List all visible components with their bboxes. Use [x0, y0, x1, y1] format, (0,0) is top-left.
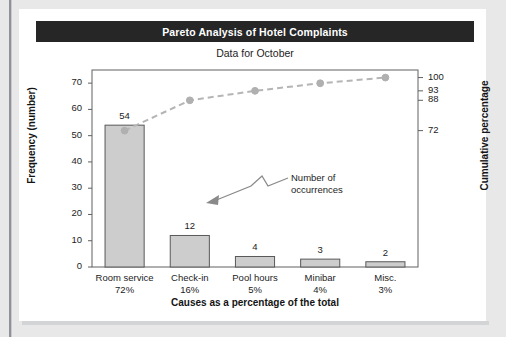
- bar-1: [170, 235, 209, 267]
- annotation-arrowhead: [206, 195, 219, 205]
- cumulative-marker-0: [121, 127, 128, 134]
- y-tick-label-left-70: 70: [56, 76, 82, 87]
- y-tick-label-left-40: 40: [56, 155, 82, 166]
- bar-value-label-1: 12: [170, 220, 210, 231]
- bar-0: [105, 125, 144, 267]
- page-root: Pareto Analysis of Hotel Complaints Data…: [0, 0, 506, 337]
- y-tick-label-right-93: 93: [428, 84, 454, 95]
- bar-2: [235, 256, 274, 267]
- annotation-line-1: Number of: [291, 172, 335, 183]
- cumulative-marker-1: [186, 97, 193, 104]
- y-tick-label-left-20: 20: [56, 207, 82, 218]
- bar-4: [366, 262, 405, 267]
- category-percent-4: 3%: [345, 284, 425, 296]
- category-label-4: Misc.3%: [345, 272, 425, 296]
- y-tick-label-right-72: 72: [428, 124, 454, 135]
- x-axis-title: Causes as a percentage of the total: [36, 297, 474, 308]
- cumulative-marker-4: [382, 74, 389, 81]
- bar-value-label-2: 4: [235, 241, 275, 252]
- bar-value-label-3: 3: [300, 244, 340, 255]
- annotation-line-2: occurrences: [291, 184, 343, 195]
- y-tick-label-right-100: 100: [428, 71, 454, 82]
- cumulative-marker-2: [252, 87, 259, 94]
- y-tick-label-left-0: 0: [56, 260, 82, 271]
- cumulative-marker-3: [317, 80, 324, 87]
- bar-value-label-4: 2: [365, 247, 405, 258]
- cumulative-line: [125, 78, 386, 131]
- category-name-4: Misc.: [345, 272, 425, 284]
- y-tick-label-right-88: 88: [428, 93, 454, 104]
- bar-3: [301, 259, 340, 267]
- y-axis-title-right: Cumulative percentage: [479, 61, 490, 211]
- bar-value-label-0: 54: [105, 110, 145, 121]
- annotation-number-of-occurrences: Number of occurrences: [291, 172, 387, 196]
- y-tick-label-left-50: 50: [56, 129, 82, 140]
- y-tick-label-left-30: 30: [56, 181, 82, 192]
- annotation-leader: [214, 176, 288, 201]
- y-tick-label-left-60: 60: [56, 102, 82, 113]
- y-tick-label-left-10: 10: [56, 234, 82, 245]
- y-axis-title-left: Frequency (number): [26, 66, 37, 206]
